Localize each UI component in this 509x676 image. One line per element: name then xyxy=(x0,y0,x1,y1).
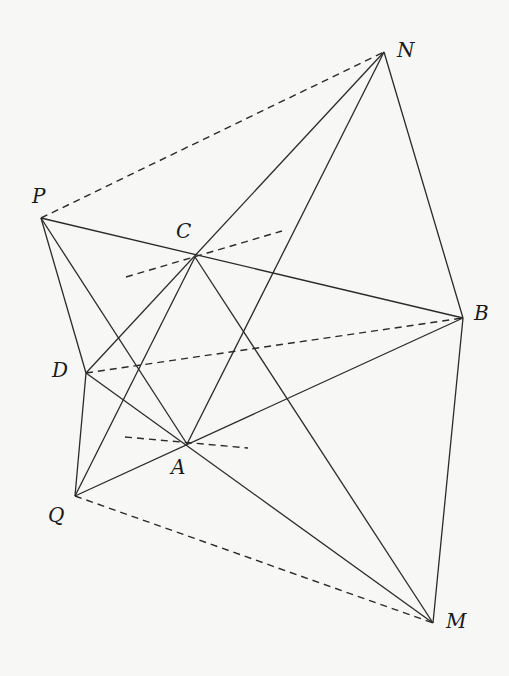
segment-NB xyxy=(384,52,463,318)
segment-BM xyxy=(433,318,463,623)
label-A: A xyxy=(169,455,185,479)
segment-QM xyxy=(75,496,433,623)
label-M: M xyxy=(445,609,467,633)
label-B: B xyxy=(473,301,489,325)
solid-segments xyxy=(41,52,463,623)
label-N: N xyxy=(396,38,416,62)
auxiliary-dashed-lines xyxy=(125,231,282,448)
segment-PA xyxy=(41,218,187,444)
segment-PB xyxy=(41,218,463,318)
segment-DB xyxy=(86,318,463,373)
label-D: D xyxy=(51,358,68,382)
segment-PD xyxy=(41,218,86,373)
dashed-line-through-A xyxy=(125,437,248,448)
segment-CM xyxy=(195,257,433,623)
segment-PN xyxy=(41,52,384,218)
label-P: P xyxy=(31,184,46,208)
point-labels: P N C B D A Q M xyxy=(31,38,489,633)
segment-DM xyxy=(86,373,433,623)
label-C: C xyxy=(176,219,191,243)
dashed-segments xyxy=(41,52,463,623)
label-Q: Q xyxy=(48,503,64,527)
segment-AN xyxy=(187,52,384,444)
geometry-diagram: P N C B D A Q M xyxy=(0,0,509,676)
segment-DN xyxy=(86,52,384,373)
